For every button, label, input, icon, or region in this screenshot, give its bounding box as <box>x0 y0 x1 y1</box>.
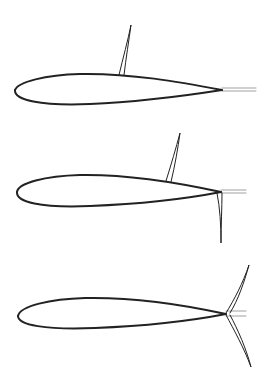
airfoil-lower-surface <box>17 192 221 206</box>
airfoil-upper-surface <box>15 74 222 90</box>
airfoil-3 <box>18 265 251 367</box>
airfoil-upper-surface <box>18 298 226 316</box>
airfoil-lower-surface <box>18 314 226 328</box>
airfoil-diagram <box>0 0 268 391</box>
airfoil-lower-surface <box>15 90 222 104</box>
spoiler <box>166 133 180 182</box>
airfoil-upper-surface <box>17 175 221 192</box>
upper-surface <box>226 265 249 313</box>
spoiler <box>119 25 131 75</box>
airfoil-1 <box>15 25 256 104</box>
lower-surface <box>226 315 251 367</box>
airfoil-2 <box>17 133 246 243</box>
lower-flap <box>217 193 222 243</box>
